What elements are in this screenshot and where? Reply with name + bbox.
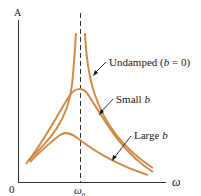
resonance-frequency-label: ω0 bbox=[74, 185, 85, 196]
resonance-diagram bbox=[0, 0, 201, 196]
small-b-pointer-arrow bbox=[99, 99, 113, 115]
undamped-label: Undamped (b = 0) bbox=[109, 57, 190, 68]
small-b-label: Small b bbox=[116, 94, 150, 105]
origin-label: 0 bbox=[9, 184, 15, 195]
large-b-label: Large b bbox=[134, 130, 168, 141]
x-axis-label: ω bbox=[172, 176, 180, 188]
y-axis-label: A bbox=[14, 8, 21, 18]
undamped-pointer-arrow bbox=[93, 62, 106, 76]
